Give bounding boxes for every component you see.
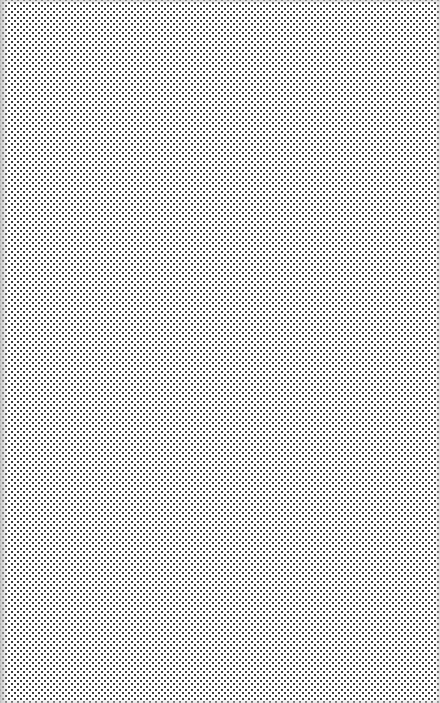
dotted-pattern-canvas xyxy=(0,0,440,703)
